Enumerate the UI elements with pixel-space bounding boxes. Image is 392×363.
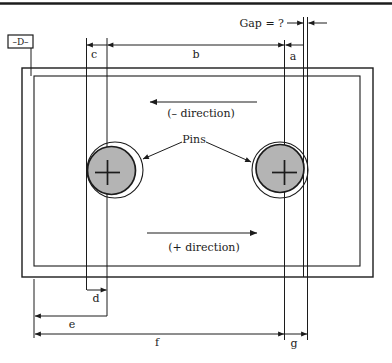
- dim-c: c: [87, 45, 107, 61]
- left-pin-circle: [88, 147, 136, 195]
- dim-g: g: [285, 334, 307, 350]
- negative-direction-label: (– direction): [167, 107, 235, 120]
- dim-d: d: [87, 290, 107, 305]
- dim-d-label: d: [92, 292, 99, 305]
- gap-label: Gap = ?: [240, 17, 285, 30]
- right-pin-circle: [256, 145, 304, 193]
- pins-leader-right-arrow: [206, 142, 251, 162]
- dim-e-label: e: [69, 318, 76, 331]
- pins-leader-left-arrow: [143, 142, 182, 159]
- negative-direction-callout: (– direction): [150, 102, 257, 120]
- dim-b: b: [108, 45, 285, 61]
- datum-flag: –D–: [8, 35, 33, 76]
- figure-canvas: –D–: [0, 0, 392, 363]
- part-inner-rect: [34, 76, 360, 266]
- datum-label: –D–: [12, 37, 29, 47]
- pins-label: Pins: [182, 133, 206, 146]
- gap-callout: Gap = ?: [240, 17, 328, 30]
- positive-direction-label: (+ direction): [168, 241, 239, 254]
- positive-direction-callout: (+ direction): [147, 233, 257, 254]
- dim-a: a: [286, 45, 304, 63]
- dim-f-label: f: [155, 336, 160, 349]
- dim-b-label: b: [192, 48, 199, 61]
- dim-c-label: c: [91, 48, 97, 61]
- dim-g-label: g: [290, 337, 297, 350]
- pins-callout: Pins: [143, 133, 251, 162]
- dim-a-label: a: [290, 50, 297, 63]
- left-pin: [87, 142, 143, 198]
- right-pin: [252, 142, 308, 198]
- dim-f: f: [35, 334, 284, 349]
- dim-e: e: [35, 316, 107, 331]
- tolerance-diagram: –D–: [0, 0, 392, 363]
